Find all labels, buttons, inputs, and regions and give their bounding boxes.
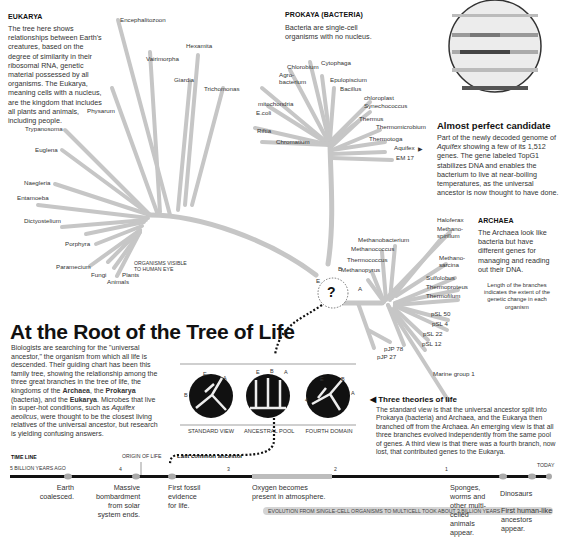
timeline-event: First fossil evidence for life. (168, 483, 206, 510)
organism-label: Haloferax (437, 217, 463, 223)
organism-label: E.coli (256, 110, 271, 116)
organism-label: Methanopyrus (341, 267, 380, 273)
organism-label: pJP 27 (377, 354, 396, 360)
organism-label: pSL 22 (423, 331, 442, 337)
theory-label: A (223, 376, 227, 382)
root-label-e: E (316, 278, 320, 284)
organism-label: Fungi (91, 272, 106, 278)
timeline-event: Earth coalesced. (36, 483, 74, 501)
organism-label: Methanococcus (351, 246, 394, 252)
last-common-ancestor-label: Last common ancestor (177, 453, 243, 459)
visible-organisms-note: ORGANISMS VISIBLE TO HUMAN EYE (134, 260, 194, 272)
organism-label: Paramecium (56, 264, 91, 270)
eukarya-title: EUKARYA (8, 13, 42, 20)
organism-label: Animals (107, 279, 129, 285)
root-question-mark: ? (327, 284, 336, 300)
archaea-title: ARCHAEA (478, 217, 514, 224)
organism-label: Thermoproteus (426, 284, 468, 290)
organism-label: Plants (122, 272, 139, 278)
organism-label: Methano-spirillum (437, 225, 463, 239)
organism-label: Encephalitozoon (120, 17, 166, 23)
organism-label: Thermofilum (426, 293, 460, 299)
origin-of-life-label: ORIGIN OF LIFE (122, 453, 162, 459)
pointer-arrow-icon: ▶ (418, 146, 423, 152)
organism-label: Synechococcus (364, 103, 407, 109)
organism-label: pSL 12 (422, 341, 441, 347)
pointer-left-icon: ◀ (370, 395, 378, 404)
timeline-start-label: 5 BILLION YEARS AGO (10, 465, 66, 471)
organism-label: Vairimorpha (146, 56, 179, 62)
theories-title: ◀ Three theories of life (370, 395, 457, 404)
theory-label: B (270, 369, 274, 375)
organism-label: Physarum (87, 108, 115, 114)
root-label-a: A (358, 286, 362, 292)
theory-caption-standard: STANDARD VIEW (187, 428, 235, 434)
theories-description: The standard view is that the universal … (376, 406, 558, 456)
theory-caption-ancestral: ANCESTRAL POOL (244, 428, 294, 434)
timeline-event: First human-like ancestors appear. (501, 506, 557, 533)
organism-label: Trichomonas (204, 86, 240, 92)
organism-label: Dictyostelium (24, 218, 61, 224)
candidate-title: Almost perfect candidate (437, 120, 551, 131)
archaea-description: The Archaea look like bacteria but have … (478, 228, 554, 274)
organism-label: Thermococcus (347, 257, 388, 263)
organism-label: Porphyra (65, 241, 90, 247)
organism-label: Trypanosoma (25, 126, 63, 132)
theory-label: A (284, 370, 288, 376)
theory-label: E (203, 372, 207, 378)
organism-label: Methano-sarcina (439, 254, 465, 268)
tick-label: 3 (227, 466, 230, 472)
tick-label: 4 (119, 466, 122, 472)
organism-label: Thermotoga (369, 136, 402, 142)
organism-label: Agro-bacterium (279, 71, 309, 85)
timeline-title: TIME LINE (11, 454, 37, 460)
branch-length-note: Length of the branches indicates the ext… (480, 282, 554, 311)
organism-label: EM 17 (396, 155, 414, 161)
intro-text: Biologists are searching for the "univer… (11, 344, 161, 439)
theory-label: 4 (305, 398, 308, 404)
organism-label: Chromatium (276, 139, 310, 145)
organism-label: Riftia (257, 128, 271, 134)
organism-label: Thermus (359, 116, 383, 122)
prokarya-description: Bacteria are single-cell organisms with … (285, 23, 385, 41)
organism-label: Bacillus (340, 86, 361, 92)
tick-label: 1 (445, 466, 448, 472)
organism-label: pSL 4 (432, 321, 448, 327)
organism-label: Naegleria (24, 180, 50, 186)
evolution-bar-label: EVOLUTION FROM SINGLE-CELL ORGANISMS TO … (268, 508, 500, 514)
timeline-event: Dinosaurs (500, 489, 532, 498)
timeline-event: Oxygen becomes present in atmosphere. (252, 483, 332, 501)
organism-label: chloroplast (364, 95, 394, 101)
organism-label: Giardia (174, 77, 194, 83)
theory-caption-fourth: FOURTH DOMAIN (303, 428, 355, 434)
organism-label: pJP 78 (384, 346, 403, 352)
organism-label: pSL 50 (431, 311, 450, 317)
organism-label: Chlorobium (287, 64, 319, 70)
page-title: At the Root of the Tree of Life (10, 320, 295, 344)
timeline-event: Massive bombardment from solar system en… (96, 483, 140, 519)
organism-label: Cytophaga (321, 60, 351, 66)
organism-label: Marine group 1 (433, 371, 475, 377)
theory-label: B (184, 393, 188, 399)
organism-label: Entamoeba (17, 195, 49, 201)
organism-label: Sulfolobus (426, 275, 455, 281)
organism-label: Hexamita (186, 43, 212, 49)
organism-label: mitochondria (258, 101, 293, 107)
candidate-description: Part of the newly decoded genome of Aqui… (437, 133, 559, 197)
prokarya-title: PROKAYA (BACTERIA) (285, 11, 363, 18)
organism-label: Methanobacterium (358, 237, 409, 243)
organism-label: Euglena (35, 147, 58, 153)
today-label: TODAY (537, 462, 554, 468)
organism-label: Epulopiscium (330, 77, 367, 83)
organism-label: Thermomicrobium (376, 124, 426, 130)
theory-label: E (320, 377, 324, 383)
organism-label: Aquifex (394, 145, 415, 151)
tick-label: 2 (334, 466, 337, 472)
theory-label: A (351, 391, 355, 397)
theory-label: B (341, 377, 345, 383)
theory-label: E (256, 370, 260, 376)
